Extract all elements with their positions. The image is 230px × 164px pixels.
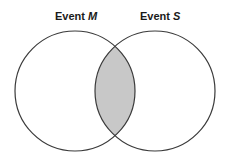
label-event-m: Event M — [55, 10, 97, 23]
venn-diagram — [0, 0, 230, 164]
label-event-m-var: M — [88, 10, 97, 22]
label-event-s-var: S — [173, 10, 180, 22]
label-event-s-prefix: Event — [140, 10, 173, 22]
label-event-s: Event S — [140, 10, 180, 23]
intersection-region — [95, 31, 215, 151]
label-event-m-prefix: Event — [55, 10, 88, 22]
